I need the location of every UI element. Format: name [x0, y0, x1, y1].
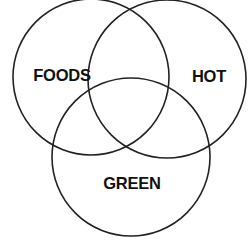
- circle-green: [52, 78, 210, 236]
- label-hot: HOT: [192, 67, 226, 85]
- label-foods: FOODS: [33, 66, 91, 84]
- venn-labels: FOODS HOT GREEN: [33, 66, 226, 192]
- venn-diagram: FOODS HOT GREEN: [0, 0, 248, 243]
- venn-circles: [13, 0, 246, 236]
- label-green: GREEN: [103, 174, 161, 192]
